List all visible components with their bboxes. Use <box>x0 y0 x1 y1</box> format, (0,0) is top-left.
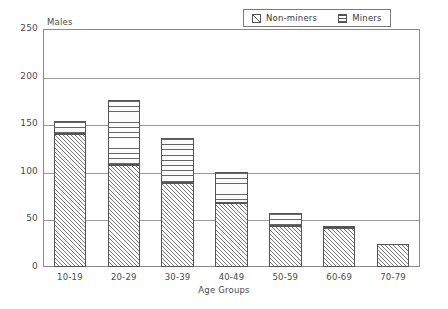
y-tick-label: 150 <box>20 118 38 128</box>
x-tick-label: 50-59 <box>258 272 312 282</box>
legend-item-non-miners: Non-miners <box>252 13 317 23</box>
y-tick-label: 250 <box>20 23 38 33</box>
x-tick-label: 60-69 <box>312 272 366 282</box>
y-tick-label: 100 <box>20 166 38 176</box>
legend-label-non-miners: Non-miners <box>266 13 317 23</box>
bar-segment-miners[interactable] <box>215 172 247 203</box>
y-tick-label: 50 <box>26 213 38 223</box>
bar-group[interactable] <box>377 244 409 267</box>
bar-segment-miners[interactable] <box>108 100 140 165</box>
bar-segment-miners[interactable] <box>323 226 355 228</box>
bar-segment-miners[interactable] <box>269 213 301 226</box>
bar-group[interactable] <box>161 138 193 267</box>
bar-group[interactable] <box>323 226 355 267</box>
x-tick-label: 10-19 <box>43 272 97 282</box>
bar-group[interactable] <box>108 100 140 267</box>
stacked-bar-chart: Males 050100150200250 10-1920-2930-3940-… <box>0 0 448 309</box>
x-tick-label: 40-49 <box>205 272 259 282</box>
bar-group[interactable] <box>269 213 301 267</box>
legend-item-miners: Miners <box>338 13 381 23</box>
x-tick-label: 20-29 <box>97 272 151 282</box>
bar-segment-miners[interactable] <box>161 138 193 184</box>
x-tick-label: 30-39 <box>151 272 205 282</box>
y-axis-title: Males <box>47 17 73 27</box>
bars-layer <box>43 29 420 267</box>
bar-segment-non-miners[interactable] <box>161 183 193 267</box>
bar-segment-non-miners[interactable] <box>215 203 247 267</box>
y-tick-label: 0 <box>32 261 38 271</box>
diagonal-hatch-icon <box>252 14 261 23</box>
bar-group[interactable] <box>54 121 86 267</box>
bar-segment-miners[interactable] <box>54 121 86 133</box>
bar-group[interactable] <box>215 172 247 267</box>
y-tick-label: 200 <box>20 71 38 81</box>
bar-segment-non-miners[interactable] <box>108 165 140 267</box>
x-axis-title: Age Groups <box>0 285 448 295</box>
chart-legend: Non-miners Miners <box>243 9 391 27</box>
horizontal-lines-icon <box>338 14 347 23</box>
bar-segment-non-miners[interactable] <box>323 228 355 267</box>
x-tick-label: 70-79 <box>366 272 420 282</box>
legend-label-miners: Miners <box>352 13 381 23</box>
y-axis-ticks: 050100150200250 <box>0 0 38 309</box>
bar-segment-non-miners[interactable] <box>54 134 86 267</box>
bar-segment-non-miners[interactable] <box>377 244 409 267</box>
bar-segment-non-miners[interactable] <box>269 226 301 267</box>
